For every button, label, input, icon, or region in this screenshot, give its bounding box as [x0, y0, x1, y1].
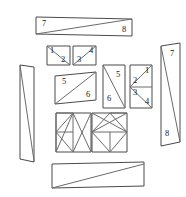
bottom-horizontal-bar: [52, 162, 144, 188]
tall-rectangle-pieces-5-6-label-1: 5: [116, 69, 120, 79]
small-square-pieces-1-2-label-2: 2: [61, 54, 65, 64]
top-horizontal-bar-label-2: 8: [122, 24, 126, 34]
right-vertical-bar-label-1: 7: [170, 48, 174, 58]
dissection-diagram: 7812435656123478: [0, 0, 186, 197]
triangle-panel-left: [56, 113, 91, 152]
parallelogram-pieces-5-6-label-2: 6: [86, 89, 90, 99]
right-vertical-bar-label-2: 8: [165, 128, 169, 138]
small-square-pieces-1-2-label-1: 1: [50, 45, 54, 55]
small-square-pieces-1-2: 12: [47, 45, 70, 65]
small-square-pieces-3-4: 43: [73, 45, 96, 65]
left-vertical-bar: [20, 65, 34, 162]
top-horizontal-bar: 78: [36, 17, 132, 36]
tall-rectangle-pieces-1-2-3-4-label-2: 2: [133, 75, 137, 85]
figure-canvas: 7812435656123478: [0, 0, 186, 197]
right-vertical-bar: 78: [161, 43, 180, 146]
tall-rectangle-pieces-1-2-3-4-label-3: 3: [133, 87, 137, 97]
small-square-pieces-3-4-label-2: 3: [77, 54, 81, 64]
tall-rectangle-pieces-1-2-3-4: 1234: [130, 65, 152, 108]
tall-rectangle-pieces-5-6-label-2: 6: [107, 93, 111, 103]
top-horizontal-bar-label-1: 7: [42, 18, 46, 28]
tall-rectangle-pieces-5-6: 56: [103, 65, 125, 108]
parallelogram-pieces-5-6-label-1: 5: [62, 76, 66, 86]
tall-rectangle-pieces-1-2-3-4-label-1: 1: [145, 65, 149, 75]
parallelogram-pieces-5-6: 56: [55, 72, 96, 104]
triangle-panel-right: [92, 113, 127, 152]
